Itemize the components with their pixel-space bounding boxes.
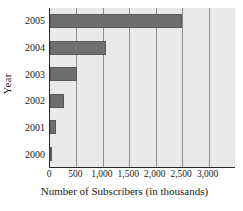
x-tick-label: 3,000 xyxy=(197,170,218,180)
x-tick-label: 0 xyxy=(47,170,52,180)
plot-area xyxy=(49,8,235,168)
bar-row xyxy=(50,8,235,35)
x-tick-label: 1,000 xyxy=(91,170,112,180)
x-tick-label: 2,500 xyxy=(170,170,191,180)
y-axis-title-label: Year xyxy=(1,73,13,94)
y-tick-label: 2004 xyxy=(14,35,48,62)
y-tick-label: 2005 xyxy=(14,8,48,35)
bar-series xyxy=(50,8,235,167)
x-tick-label: 1,500 xyxy=(118,170,139,180)
x-tick-label: 500 xyxy=(68,170,82,180)
bar[interactable] xyxy=(50,67,77,81)
y-tick-label: 2002 xyxy=(14,88,48,115)
x-axis-tick-labels: 05001,0001,5002,0002,5003,000 xyxy=(49,170,235,184)
bar-row xyxy=(50,114,235,141)
bar[interactable] xyxy=(50,94,64,108)
bar[interactable] xyxy=(50,14,182,28)
bar[interactable] xyxy=(50,41,106,55)
bar-row xyxy=(50,88,235,115)
y-tick-label: 2000 xyxy=(14,141,48,168)
y-axis-title: Year xyxy=(0,0,14,168)
bar-row xyxy=(50,61,235,88)
y-tick-label: 2001 xyxy=(14,115,48,142)
y-tick-label: 2003 xyxy=(14,61,48,88)
bar-row xyxy=(50,35,235,62)
bar-row xyxy=(50,141,235,168)
bar[interactable] xyxy=(50,147,52,161)
bar-chart: Year 2005 2004 2003 2002 2001 2000 05001… xyxy=(0,0,243,211)
x-axis-title: Number of Subscribers (in thousands) xyxy=(14,186,235,197)
y-axis-tick-labels: 2005 2004 2003 2002 2001 2000 xyxy=(14,8,48,168)
bar[interactable] xyxy=(50,120,56,134)
x-tick-label: 2,000 xyxy=(144,170,165,180)
